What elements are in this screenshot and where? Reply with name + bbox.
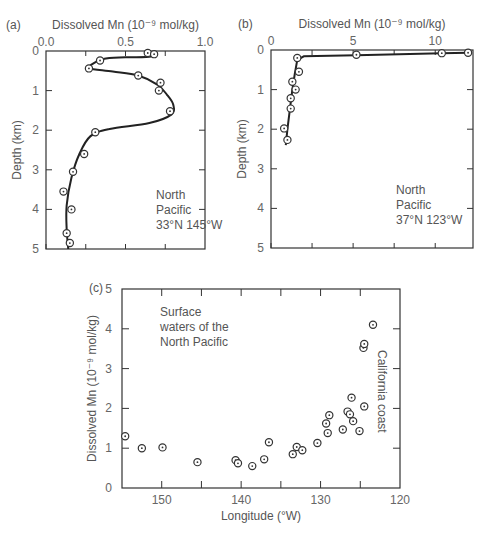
x-tick-label: 10 <box>429 34 443 48</box>
data-point <box>249 463 256 470</box>
location-annotation: North <box>156 188 185 202</box>
data-point <box>356 427 363 434</box>
region-annotation: North Pacific <box>160 335 228 349</box>
data-point <box>350 418 357 425</box>
y-axis-title: Dissolved Mn (10⁻⁹ mol/kg) <box>85 315 99 462</box>
y-tick-label: 3 <box>257 162 264 176</box>
location-annotation: Pacific <box>156 203 191 217</box>
data-point <box>68 206 75 213</box>
data-point <box>464 49 471 56</box>
y-tick-label: 5 <box>32 242 39 256</box>
location-annotation: North <box>396 183 425 197</box>
x-tick-label: 1.0 <box>197 35 214 49</box>
figure: 0.00.51.0012345Dissolved Mn (10⁻⁹ mol/kg… <box>0 0 493 533</box>
data-point <box>348 394 355 401</box>
data-point <box>284 136 291 143</box>
x-axis-title: Dissolved Mn (10⁻⁹ mol/kg) <box>299 17 446 31</box>
x-tick-label: 0 <box>268 34 275 48</box>
data-point <box>194 459 201 466</box>
y-tick-label: 2 <box>257 122 264 136</box>
data-point <box>157 79 164 86</box>
data-point <box>346 411 353 418</box>
data-point <box>369 321 376 328</box>
panel-a-depth-profile: 0.00.51.0012345Dissolved Mn (10⁻⁹ mol/kg… <box>6 18 223 256</box>
y-tick-label: 1 <box>257 83 264 97</box>
x-tick-label: 0.5 <box>117 35 134 49</box>
data-point <box>66 239 73 246</box>
data-point <box>122 433 129 440</box>
y-tick-label: 3 <box>105 362 112 376</box>
x-tick-label: 130 <box>311 493 331 507</box>
data-point <box>287 95 294 102</box>
data-point <box>292 86 299 93</box>
data-point <box>63 230 70 237</box>
x-axis-title: Dissolved Mn (10⁻⁹ mol/kg) <box>52 18 199 32</box>
data-point <box>166 108 173 115</box>
data-point <box>323 420 330 427</box>
data-point <box>361 403 368 410</box>
y-tick-label: 5 <box>257 241 264 255</box>
data-point <box>361 340 368 347</box>
data-point <box>135 72 142 79</box>
y-tick-label: 5 <box>105 282 112 296</box>
y-tick-label: 0 <box>105 481 112 495</box>
data-point <box>353 51 360 58</box>
x-tick-label: 150 <box>152 493 172 507</box>
location-annotation: 33°N 145°W <box>156 218 223 232</box>
coast-annotation: California coast <box>375 350 389 433</box>
y-axis-title: Depth (km) <box>235 119 249 178</box>
data-point <box>295 68 302 75</box>
data-point <box>314 439 321 446</box>
y-tick-label: 2 <box>105 401 112 415</box>
data-point <box>234 460 241 467</box>
y-tick-label: 0 <box>32 44 39 58</box>
x-tick-label: 0.0 <box>38 35 55 49</box>
y-tick-label: 4 <box>257 201 264 215</box>
data-point <box>155 87 162 94</box>
y-tick-label: 1 <box>32 84 39 98</box>
x-tick-label: 5 <box>350 34 357 48</box>
data-point <box>289 78 296 85</box>
data-point <box>138 445 145 452</box>
data-point <box>60 188 67 195</box>
data-point <box>92 129 99 136</box>
data-point <box>287 105 294 112</box>
panel-label: (c) <box>89 281 103 295</box>
data-point <box>81 150 88 157</box>
data-point <box>151 51 158 58</box>
data-point <box>69 168 76 175</box>
y-tick-label: 0 <box>257 43 264 57</box>
data-point <box>299 447 306 454</box>
location-annotation: 37°N 123°W <box>396 213 463 227</box>
data-point <box>294 54 301 61</box>
data-point <box>261 456 268 463</box>
y-tick-label: 3 <box>32 163 39 177</box>
region-annotation: Surface <box>160 305 202 319</box>
y-tick-label: 4 <box>105 322 112 336</box>
data-point <box>438 50 445 57</box>
y-tick-label: 2 <box>32 123 39 137</box>
x-axis-title: Longitude (°W) <box>221 509 301 523</box>
y-axis-title: Depth (km) <box>10 120 24 179</box>
x-tick-label: 120 <box>390 493 410 507</box>
data-point <box>326 412 333 419</box>
panel-label: (a) <box>6 18 21 32</box>
x-tick-label: 140 <box>231 493 251 507</box>
panel-c-longitude-scatter: 150140130120012345Longitude (°W)Dissolve… <box>85 281 410 523</box>
panel-label: (b) <box>238 17 253 31</box>
profile-curve <box>286 53 468 145</box>
panel-b-depth-profile: 0510012345Dissolved Mn (10⁻⁹ mol/kg)Dept… <box>235 17 473 255</box>
data-point <box>324 429 331 436</box>
data-point <box>339 426 346 433</box>
data-point <box>289 451 296 458</box>
data-point <box>85 65 92 72</box>
data-point <box>96 57 103 64</box>
data-point <box>281 125 288 132</box>
y-tick-label: 1 <box>105 441 112 455</box>
data-point <box>265 439 272 446</box>
data-point <box>159 444 166 451</box>
y-tick-label: 4 <box>32 202 39 216</box>
location-annotation: Pacific <box>396 198 431 212</box>
region-annotation: waters of the <box>159 320 229 334</box>
